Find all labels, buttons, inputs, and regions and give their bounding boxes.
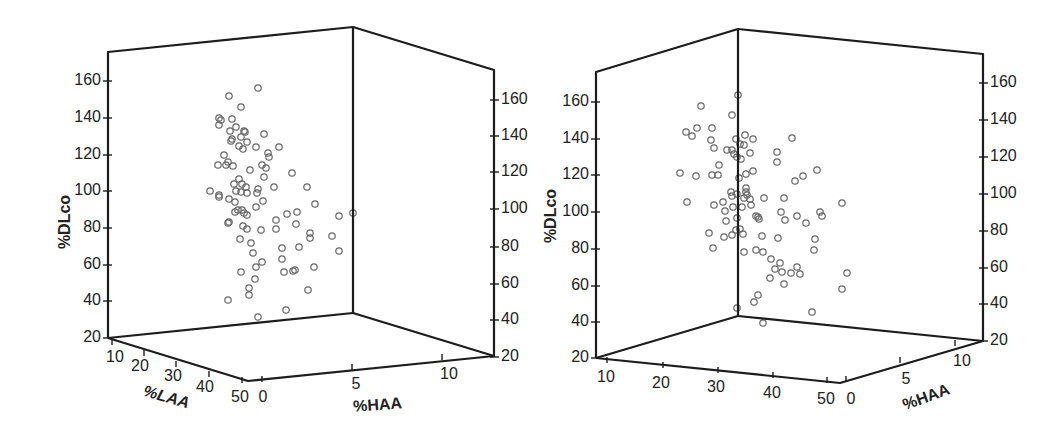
left-haa-axis-label: %HAA xyxy=(353,394,403,414)
z-tick-label-right: 20 xyxy=(990,331,1008,348)
haa-tick-label: 0 xyxy=(847,390,856,407)
data-point xyxy=(778,209,784,215)
data-point xyxy=(336,248,342,254)
data-point xyxy=(255,314,261,320)
z-tick-label-right: 80 xyxy=(990,221,1008,238)
data-point xyxy=(233,124,239,130)
data-point xyxy=(271,184,277,190)
laa-tick-label: 40 xyxy=(763,384,781,401)
data-point xyxy=(781,195,787,201)
data-point xyxy=(292,267,298,273)
data-point xyxy=(260,198,266,204)
data-point xyxy=(253,204,259,210)
data-point xyxy=(761,195,767,201)
z-tick-label: 140 xyxy=(562,129,589,146)
data-point xyxy=(748,202,754,208)
left-3d-scatter-plot: 1601401201008060402016014012010080604020… xyxy=(74,27,528,405)
data-point xyxy=(779,269,785,275)
data-point xyxy=(794,264,800,270)
z-tick-label: 60 xyxy=(83,255,101,272)
data-point xyxy=(814,167,820,173)
z-tick-label: 80 xyxy=(571,239,589,256)
data-point xyxy=(782,217,788,223)
data-point xyxy=(311,264,317,270)
data-point xyxy=(226,93,232,99)
data-point xyxy=(253,144,259,150)
laa-tick-label: 30 xyxy=(164,367,182,384)
data-point xyxy=(228,138,234,144)
data-point xyxy=(244,139,250,145)
data-point xyxy=(755,292,761,298)
data-point xyxy=(792,178,798,184)
data-points xyxy=(677,92,850,326)
data-point xyxy=(723,218,729,224)
data-point xyxy=(741,249,747,255)
floor-back-right-edge xyxy=(353,313,494,356)
data-point xyxy=(750,168,756,174)
figure: 1601401201008060402016014012010080604020… xyxy=(0,0,1062,437)
z-tick-label-right: 40 xyxy=(990,294,1008,311)
data-point xyxy=(741,142,747,148)
laa-tick-label: 20 xyxy=(652,374,670,391)
z-tick-label-right: 140 xyxy=(501,126,528,143)
axes-ticks: 1601401201008060402016014012010080604020… xyxy=(74,71,528,405)
data-point xyxy=(760,320,766,326)
data-point xyxy=(226,196,232,202)
data-point xyxy=(716,162,722,168)
z-tick-label-right: 80 xyxy=(501,237,519,254)
z-tick-label: 20 xyxy=(83,328,101,345)
box-frame xyxy=(596,29,983,383)
outer-frame xyxy=(108,27,494,381)
data-point xyxy=(227,128,233,134)
data-point xyxy=(276,144,282,150)
data-point xyxy=(273,217,279,223)
haa-tick-label: 10 xyxy=(953,352,971,369)
data-point xyxy=(229,116,235,122)
data-point xyxy=(207,188,213,194)
data-point xyxy=(775,235,781,241)
data-point xyxy=(774,159,780,165)
data-point xyxy=(225,297,231,303)
data-point xyxy=(740,231,746,237)
data-point xyxy=(839,286,845,292)
data-points xyxy=(207,85,356,320)
data-point xyxy=(261,131,267,137)
z-tick-label-right: 100 xyxy=(990,184,1017,201)
right-dlco-axis-label: %DLco xyxy=(542,189,559,243)
data-point xyxy=(772,266,778,272)
data-point xyxy=(250,250,256,256)
data-point xyxy=(231,181,237,187)
data-point xyxy=(293,221,299,227)
laa-tick-label: 10 xyxy=(106,348,124,365)
data-point xyxy=(255,85,261,91)
z-tick-label-right: 60 xyxy=(501,274,519,291)
haa-tick-label: 10 xyxy=(440,365,458,382)
data-point xyxy=(238,104,244,110)
data-point xyxy=(294,209,300,215)
data-point xyxy=(252,276,258,282)
data-point xyxy=(273,226,279,232)
z-tick-label: 120 xyxy=(74,145,101,162)
haa-tick-label: 5 xyxy=(902,370,911,387)
z-tick-label: 40 xyxy=(571,312,589,329)
data-point xyxy=(683,129,689,135)
data-point xyxy=(839,200,845,206)
data-point xyxy=(261,174,267,180)
z-tick-label: 20 xyxy=(571,348,589,365)
data-point xyxy=(844,270,850,276)
data-point xyxy=(247,167,253,173)
data-point xyxy=(230,163,236,169)
axes-ticks: 1601401201008060402016014012010080604020… xyxy=(562,73,1017,407)
laa-tick-label: 50 xyxy=(231,388,249,405)
data-point xyxy=(720,199,726,205)
data-point xyxy=(283,307,289,313)
data-point xyxy=(800,173,806,179)
haa-tick-label: 0 xyxy=(259,388,268,405)
z-tick-label-right: 120 xyxy=(990,147,1017,164)
data-point xyxy=(812,236,818,242)
data-point xyxy=(730,204,736,210)
laa-tick-label: 50 xyxy=(817,390,835,407)
data-point xyxy=(794,213,800,219)
z-tick-label: 140 xyxy=(74,108,101,125)
laa-tick-label: 10 xyxy=(597,368,615,385)
